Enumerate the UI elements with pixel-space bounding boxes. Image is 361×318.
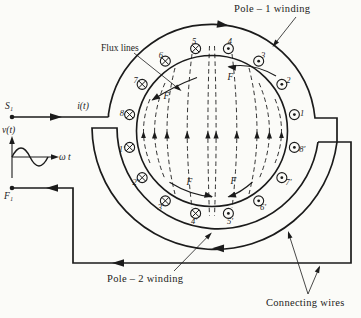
flux-arrow [141,131,146,138]
flux-arrow [152,131,157,139]
conductor-out-of-page: 2 [277,75,292,89]
conductor-label: 3′ [157,202,164,212]
voltage-label: v(t) [2,125,15,136]
conductor-label: 6′ [260,202,266,212]
flux-arrow [267,131,272,139]
conductor-label: 4′ [191,216,197,226]
callout-arrowhead [315,266,320,274]
flux-line [249,68,257,194]
flux-arrow [234,131,239,139]
stator-bore-circle [137,56,288,207]
conductor-label: 1′ [119,144,125,154]
dot-icon [257,60,260,63]
pole1-current-arrow [217,20,229,28]
dot-icon [227,47,230,50]
conductor-label: 5 [192,36,196,46]
current-arrow [50,113,62,121]
conductor-into-page: 3′ [157,196,170,213]
dot-icon [293,113,296,116]
conductors-group: 123456781′2′3′4′5′6′7′8′ [119,36,306,226]
conductor-out-of-page: 7′ [277,173,292,187]
terminal-f1-dot [10,186,15,191]
flux-arrow [185,131,190,139]
flux-arrow [214,131,219,139]
conductor-into-page: 1′ [119,142,135,154]
pole2-winding-label: Pole – 2 winding [107,273,184,284]
flux-line [215,46,217,216]
connecting-wires-label: Connecting wires [266,297,345,308]
flux-line [208,46,210,216]
terminal-s1-dot [10,115,15,120]
flux-lines-label: Flux lines [101,43,139,53]
terminal-f1-label: F₁ [3,191,13,201]
flux-side-loop [275,99,282,163]
return-current-arrow [112,259,124,267]
dot-icon [280,176,283,179]
conductor-label: 3 [260,50,265,60]
conductor-label: 2′ [132,177,138,187]
flux-line [167,68,175,194]
force-arrowhead [228,192,237,198]
current-label: i(t) [77,101,89,112]
flux-arrow [279,131,284,138]
flux-arrow [205,131,210,139]
conductor-label: 5′ [227,216,233,226]
force-label-bottom-left: F⃗ [185,177,199,187]
terminal-s1-label: S₁ [5,101,13,111]
dot-icon [293,146,296,149]
flux-side-loop [144,99,151,163]
dot-icon [227,212,230,215]
conductor-out-of-page: 1 [289,108,304,120]
flux-arrow [164,131,169,139]
callout-arrowhead [288,231,293,239]
pole2-callout-line [174,234,211,271]
conductor-label: 7 [133,75,138,85]
conductor-out-of-page: 6′ [254,196,267,213]
pole1-winding-label: Pole – 1 winding [234,3,311,14]
conductor-into-page: 6 [159,50,171,67]
conductor-out-of-page: 8′ [289,142,305,154]
force-label-top-right: F⃗ [226,72,240,82]
dot-icon [280,83,283,86]
conductor-into-page: 5 [191,36,201,54]
time-axis-arrow [51,154,59,160]
conductor-out-of-page: 3 [254,50,266,67]
return-current-arrow [46,184,58,192]
conductor-label: 4 [228,36,233,46]
conductor-into-page: 4′ [191,208,201,226]
voltage-axis-arrow [9,136,15,144]
force-label-bottom-right: F⃗ [229,176,243,186]
pole2-current-arrow [212,245,224,253]
conductor-label: 6 [159,50,164,60]
conductor-into-page: 7 [133,75,147,89]
conductor-label: 8 [120,108,125,118]
two-pole-machine-figure: 123456781′2′3′4′5′6′7′8′ Pole – 1 windin… [0,0,361,318]
omega-t-label: ω t [59,152,71,162]
force-label-top-left: F⃗ [162,91,176,101]
conductor-label: 1 [300,108,304,118]
flux-lines-group [144,46,282,216]
conductor-label: 7′ [285,177,291,187]
flux-line [259,83,269,179]
conductor-into-page: 8 [120,108,135,120]
conductor-out-of-page: 5′ [223,208,233,226]
conductor-label: 8′ [299,144,305,154]
flux-arrow [254,131,259,139]
conductor-out-of-page: 4 [223,36,233,54]
conductor-into-page: 2′ [132,173,147,187]
conductor-label: 2 [286,75,291,85]
